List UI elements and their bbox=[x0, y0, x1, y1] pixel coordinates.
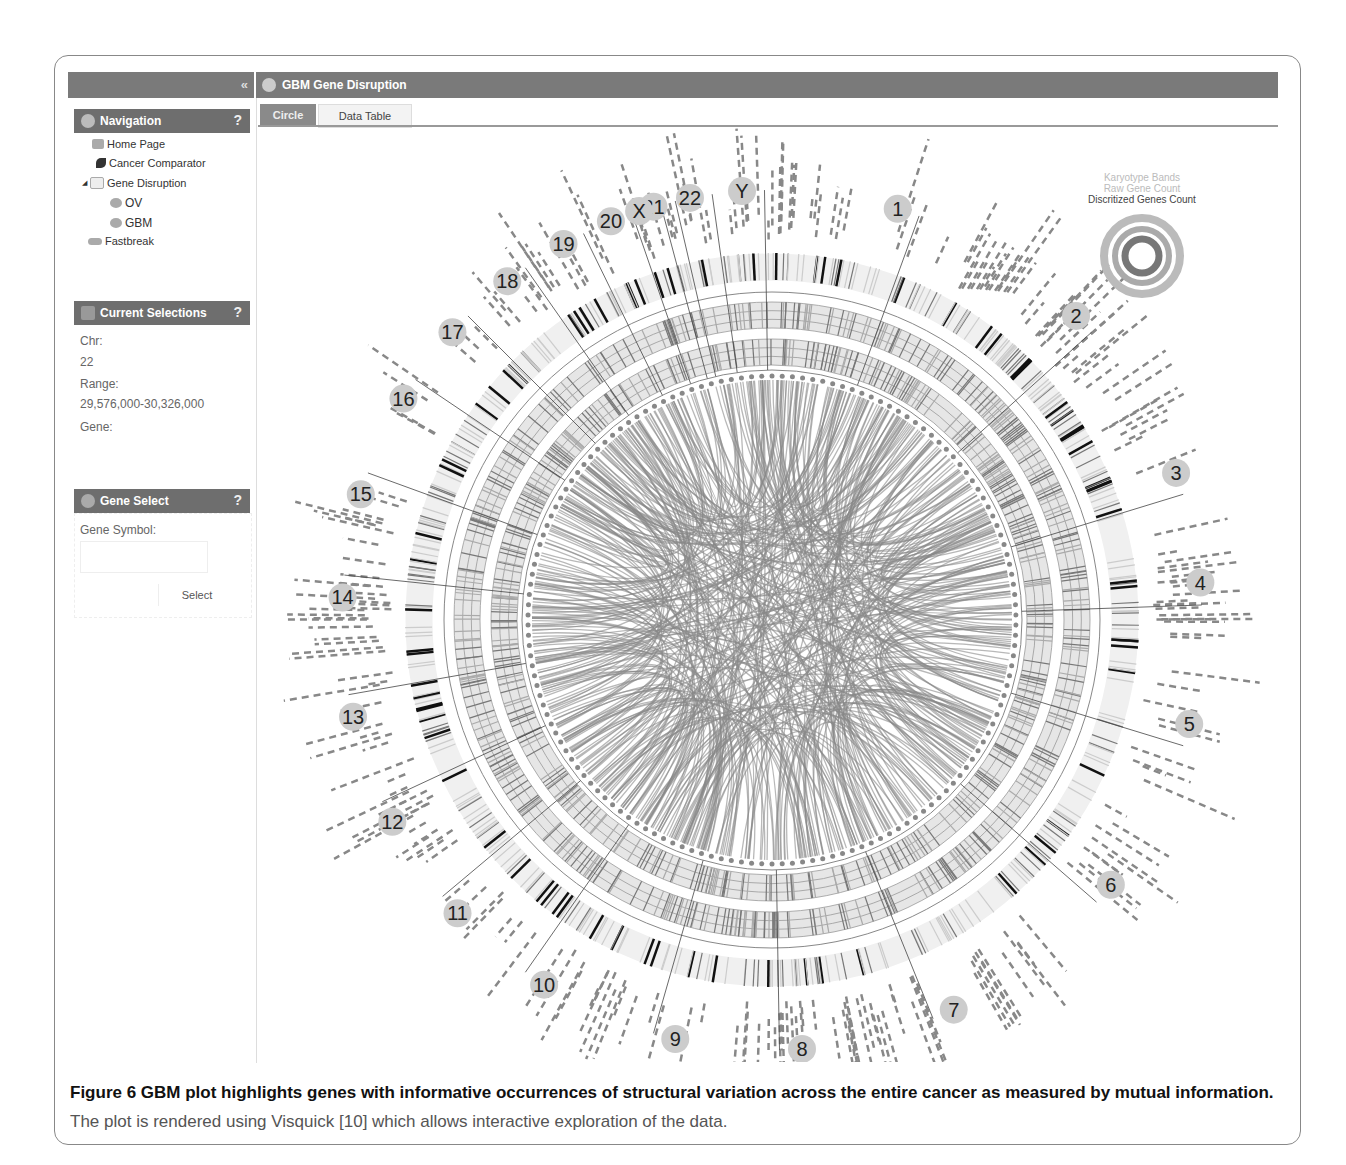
nav-label: Cancer Comparator bbox=[109, 157, 206, 169]
svg-text:17: 17 bbox=[441, 321, 463, 343]
nav-item-gbm[interactable]: GBM bbox=[110, 216, 152, 230]
gene-select-header[interactable]: Gene Select ? bbox=[74, 489, 250, 513]
expand-triangle-icon[interactable]: ◢ bbox=[82, 179, 87, 187]
svg-text:20: 20 bbox=[600, 210, 622, 232]
caption-label: Figure 6 bbox=[70, 1083, 136, 1102]
svg-text:X: X bbox=[632, 200, 645, 222]
nav-item-fastbreak[interactable]: Fastbreak bbox=[88, 235, 154, 247]
svg-text:1: 1 bbox=[892, 198, 903, 220]
help-icon[interactable]: ? bbox=[233, 112, 242, 128]
range-label: Range: bbox=[80, 377, 119, 391]
nav-label: Gene Disruption bbox=[107, 177, 187, 189]
leaf-icon bbox=[96, 158, 106, 168]
chart-icon bbox=[110, 218, 122, 228]
compass-icon bbox=[81, 114, 95, 128]
select-button[interactable]: Select bbox=[158, 584, 235, 606]
nav-label: Fastbreak bbox=[105, 235, 154, 247]
svg-text:11: 11 bbox=[447, 902, 468, 924]
chr-label: Chr: bbox=[80, 334, 103, 348]
sidebar-topbar: « bbox=[68, 72, 254, 98]
search-icon bbox=[81, 494, 95, 508]
figure-caption: Figure 6 GBM plot highlights genes with … bbox=[70, 1078, 1280, 1136]
double-chevron-left-icon[interactable]: « bbox=[241, 77, 248, 92]
chart-icon bbox=[110, 198, 122, 208]
link-icon bbox=[88, 238, 102, 245]
gene-symbol-label: Gene Symbol: bbox=[80, 523, 156, 537]
caption-bold: GBM plot highlights genes with informati… bbox=[136, 1083, 1273, 1102]
range-value: 29,576,000-30,326,000 bbox=[80, 397, 204, 411]
svg-text:3: 3 bbox=[1171, 462, 1182, 484]
gene-symbol-input[interactable] bbox=[80, 541, 208, 573]
svg-text:6: 6 bbox=[1105, 874, 1116, 896]
nav-item-cancer-comparator[interactable]: Cancer Comparator bbox=[96, 157, 206, 169]
svg-text:Y: Y bbox=[735, 180, 748, 202]
app-title: GBM Gene Disruption bbox=[282, 78, 407, 92]
legend-rings-icon bbox=[1097, 211, 1187, 301]
current-selections-header[interactable]: Current Selections ? bbox=[74, 301, 250, 325]
svg-text:16: 16 bbox=[392, 388, 414, 410]
nav-item-gene-disruption[interactable]: ◢ Gene Disruption bbox=[82, 177, 187, 189]
gene-label: Gene: bbox=[80, 420, 113, 434]
globe-icon bbox=[262, 78, 276, 92]
legend-discretized-count: Discritized Genes Count bbox=[1062, 194, 1222, 205]
app-header: GBM Gene Disruption bbox=[256, 72, 1278, 98]
svg-text:7: 7 bbox=[948, 999, 959, 1021]
nav-label: GBM bbox=[125, 216, 152, 230]
legend-raw-count: Raw Gene Count bbox=[1062, 183, 1222, 194]
navigation-panel-header[interactable]: Navigation ? bbox=[74, 109, 250, 133]
legend: Karyotype Bands Raw Gene Count Discritiz… bbox=[1062, 172, 1222, 303]
panel-title: Gene Select bbox=[100, 494, 169, 508]
svg-text:22: 22 bbox=[679, 187, 701, 209]
svg-text:2: 2 bbox=[1070, 305, 1081, 327]
nav-item-ov[interactable]: OV bbox=[110, 196, 142, 210]
nav-label: Home Page bbox=[107, 138, 165, 150]
tab-circle[interactable]: Circle bbox=[260, 104, 316, 126]
svg-text:18: 18 bbox=[496, 270, 518, 292]
svg-text:19: 19 bbox=[552, 233, 574, 255]
svg-text:9: 9 bbox=[670, 1028, 681, 1050]
svg-text:5: 5 bbox=[1184, 713, 1195, 735]
svg-text:14: 14 bbox=[331, 586, 353, 608]
legend-karyotype: Karyotype Bands bbox=[1062, 172, 1222, 183]
svg-text:15: 15 bbox=[350, 483, 372, 505]
panel-title: Current Selections bbox=[100, 306, 207, 320]
caption-rest: The plot is rendered using Visquick [10]… bbox=[70, 1112, 727, 1131]
nav-label: OV bbox=[125, 196, 142, 210]
panel-title: Navigation bbox=[100, 114, 161, 128]
grid-icon bbox=[81, 306, 95, 320]
chr-value: 22 bbox=[80, 355, 93, 369]
svg-text:10: 10 bbox=[533, 974, 555, 996]
svg-text:8: 8 bbox=[796, 1038, 807, 1060]
home-icon bbox=[92, 139, 104, 149]
svg-text:4: 4 bbox=[1195, 572, 1206, 594]
help-icon[interactable]: ? bbox=[233, 304, 242, 320]
nav-item-home-page[interactable]: Home Page bbox=[92, 138, 165, 150]
help-icon[interactable]: ? bbox=[233, 492, 242, 508]
svg-text:12: 12 bbox=[381, 811, 403, 833]
svg-text:13: 13 bbox=[342, 706, 364, 728]
folder-icon bbox=[90, 177, 104, 189]
